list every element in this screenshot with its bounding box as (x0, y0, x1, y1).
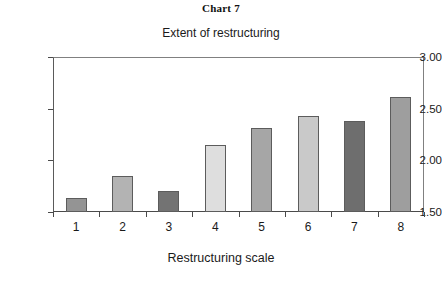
bar (205, 145, 226, 212)
y-axis-tick-mark (48, 160, 53, 161)
x-axis-tick-label: 2 (103, 220, 143, 234)
x-axis-tick-mark (239, 212, 240, 217)
x-axis-tick-mark (424, 212, 425, 217)
bar (344, 121, 365, 212)
chart-container: Chart 7 Extent of restructuring 3.002.50… (0, 0, 442, 283)
x-axis-tick-label: 6 (288, 220, 328, 234)
x-axis-tick-mark (192, 212, 193, 217)
x-axis-tick-label: 1 (56, 220, 96, 234)
bar (251, 128, 272, 212)
x-axis-tick-label: 5 (242, 220, 282, 234)
x-axis-tick-label: 4 (195, 220, 235, 234)
bar-series (54, 58, 423, 212)
x-axis-tick-mark (331, 212, 332, 217)
bar (112, 176, 133, 212)
x-axis-tick-label: 3 (149, 220, 189, 234)
x-axis-tick-mark (99, 212, 100, 217)
bar (298, 116, 319, 212)
x-axis-tick-label: 8 (381, 220, 421, 234)
bar (390, 97, 411, 212)
x-axis-tick-mark (285, 212, 286, 217)
x-axis-tick-mark (53, 212, 54, 217)
y-axis-tick-mark (48, 57, 53, 58)
chart-title: Chart 7 (0, 2, 442, 14)
x-axis-tick-mark (378, 212, 379, 217)
x-axis-tick-label: 7 (334, 220, 374, 234)
bar (158, 191, 179, 212)
y-axis-tick-mark (48, 109, 53, 110)
chart-subtitle: Extent of restructuring (0, 26, 442, 40)
bar (66, 198, 87, 212)
x-axis-title: Restructuring scale (0, 251, 442, 265)
x-axis-tick-mark (146, 212, 147, 217)
